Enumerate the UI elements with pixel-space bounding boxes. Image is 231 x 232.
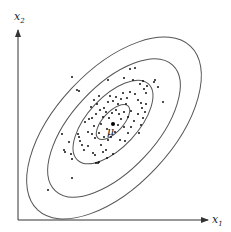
gaussian-contour-diagram: x2 x1: [0, 0, 231, 232]
contour-ellipse-4: [0, 7, 231, 232]
mean-label: μ: [107, 125, 114, 138]
y-axis-label: x2: [14, 10, 25, 25]
sample-points: [47, 67, 164, 191]
x-axis-label: x1: [212, 213, 223, 228]
